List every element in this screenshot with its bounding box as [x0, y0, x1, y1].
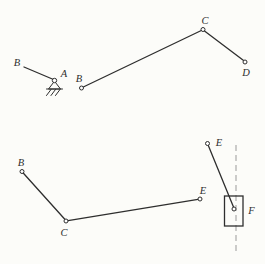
fixed-pivot-ground-symbol — [47, 83, 63, 96]
label-point-d: D — [241, 67, 250, 78]
joint-f — [232, 207, 236, 211]
link-b-a — [24, 67, 54, 80]
joint-b — [80, 86, 84, 90]
link-c-d — [205, 31, 244, 61]
joint-b — [20, 170, 24, 174]
ground-hatch-2 — [51, 90, 56, 96]
pivot-triangle — [49, 83, 61, 90]
joint-e — [206, 142, 210, 146]
link-e-f — [208, 145, 233, 207]
label-point-c: C — [201, 15, 209, 26]
joint-a — [52, 78, 56, 82]
label-point-f: F — [247, 205, 255, 216]
label-point-b: B — [14, 57, 21, 68]
joint-e — [198, 197, 202, 201]
joint-c — [64, 219, 68, 223]
label-point-a: A — [60, 68, 68, 79]
label-point-e: E — [215, 137, 223, 148]
link-c-e — [68, 199, 198, 220]
label-point-b: B — [76, 73, 83, 84]
link-b-c — [83, 31, 201, 88]
linkage-diagram-canvas: B A B C D B — [0, 0, 265, 264]
figure-crank-fixed-pivot: B A — [14, 57, 68, 96]
label-point-b: B — [18, 157, 25, 168]
figure-chain-bcd: B C D — [76, 15, 250, 90]
ground-hatch-3 — [56, 90, 61, 96]
link-b-c — [23, 173, 65, 219]
ground-hatch-1 — [47, 90, 52, 96]
joint-d — [243, 60, 247, 64]
figure-link-ef-slider: E F — [206, 137, 256, 252]
joint-c — [201, 28, 205, 32]
label-point-e: E — [199, 185, 207, 196]
figure-chain-bce: B C E — [18, 157, 207, 238]
label-point-c: C — [60, 227, 68, 238]
